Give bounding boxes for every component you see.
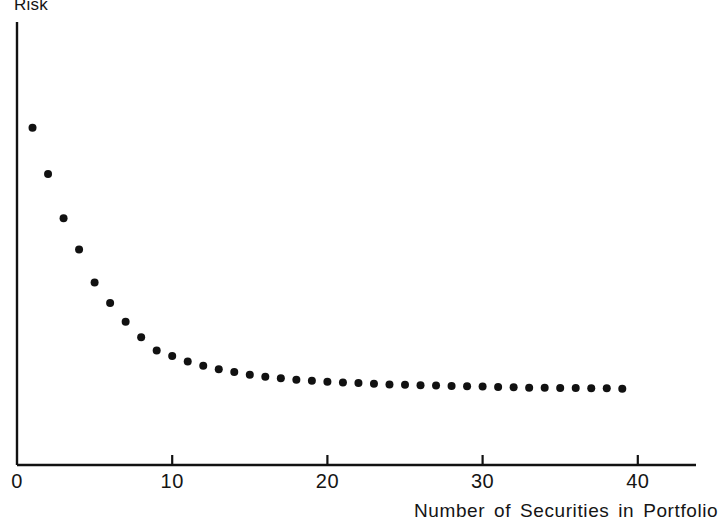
data-point: [292, 376, 300, 384]
data-point: [153, 346, 161, 354]
data-point: [339, 378, 347, 386]
data-point: [370, 380, 378, 388]
data-point: [122, 318, 130, 326]
data-point: [29, 124, 37, 132]
axis-ticks: [172, 455, 638, 465]
data-point: [277, 374, 285, 382]
x-tick-label: 20: [316, 470, 339, 493]
data-point: [354, 379, 362, 387]
data-point: [261, 373, 269, 381]
data-points: [29, 124, 627, 393]
data-point: [510, 383, 518, 391]
data-point: [75, 245, 83, 253]
data-point: [44, 170, 52, 178]
data-point: [91, 279, 99, 287]
data-point: [385, 381, 393, 389]
data-point: [199, 362, 207, 370]
data-point: [572, 384, 580, 392]
x-tick-label: 0: [11, 470, 23, 493]
data-point: [230, 368, 238, 376]
data-point: [525, 384, 533, 392]
data-point: [308, 377, 316, 385]
data-point: [556, 384, 564, 392]
x-tick-label: 40: [626, 470, 649, 493]
data-point: [137, 333, 145, 341]
data-point: [494, 383, 502, 391]
data-point: [168, 352, 176, 360]
data-point: [246, 371, 254, 379]
data-point: [541, 384, 549, 392]
axis-lines: [17, 22, 696, 465]
data-point: [448, 382, 456, 390]
x-tick-label: 10: [161, 470, 184, 493]
data-point: [323, 378, 331, 386]
x-tick-label: 30: [471, 470, 494, 493]
y-axis-title: Risk: [14, 0, 48, 15]
data-point: [618, 385, 626, 393]
data-point: [603, 384, 611, 392]
data-point: [401, 381, 409, 389]
x-axis-title: Number of Securities in Portfolio: [414, 500, 718, 519]
data-point: [587, 384, 595, 392]
data-point: [215, 365, 223, 373]
data-point: [60, 214, 68, 222]
data-point: [184, 358, 192, 366]
data-point: [463, 382, 471, 390]
data-point: [432, 382, 440, 390]
data-point: [479, 383, 487, 391]
data-point: [106, 299, 114, 307]
data-point: [417, 381, 425, 389]
